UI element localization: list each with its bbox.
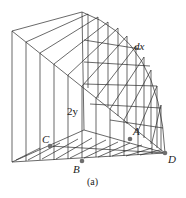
label-c: C xyxy=(42,133,50,145)
quarter-arc xyxy=(82,12,165,153)
diagram-canvas: dx 2y A B C D (a) xyxy=(0,0,186,198)
floor-hatching xyxy=(16,138,165,160)
back-vertical-slices xyxy=(88,14,161,151)
top-slice-lines xyxy=(26,14,161,142)
label-dx: dx xyxy=(134,40,145,52)
label-2y: 2y xyxy=(67,105,79,117)
point-b xyxy=(80,159,85,164)
label-a: A xyxy=(132,125,140,137)
point-a xyxy=(128,137,133,142)
solid-quarter-disk-figure: dx 2y A B C D (a) xyxy=(0,0,186,198)
wireframe xyxy=(12,12,165,162)
label-b: B xyxy=(73,163,80,175)
label-d: D xyxy=(167,153,176,165)
point-d xyxy=(163,151,168,156)
figure-caption: (a) xyxy=(87,176,98,188)
